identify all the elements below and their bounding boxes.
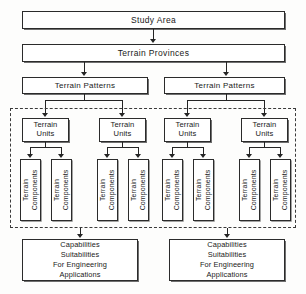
terrain-hierarchy-diagram: Study Area Terrain Provinces Terrain Pat… <box>0 0 306 294</box>
arrowhead-capabilities-1 <box>77 234 83 238</box>
terrain-components-box-5: Terrain Components <box>162 159 183 221</box>
capabilities-label-1-line2: Suitabilities <box>61 250 100 260</box>
terrain-units-label-3-line2: Units <box>179 130 197 139</box>
terrain-patterns-label-2: Terrain Patterns <box>194 81 254 90</box>
terrain-components-text-3: Terrain Components <box>99 170 117 211</box>
terrain-components-label-1-line2: Components <box>31 170 38 211</box>
capabilities-box-2: Capabilities Suitabilities For Engineeri… <box>169 239 285 281</box>
terrain-components-box-8: Terrain Components <box>270 159 291 221</box>
terrain-components-text-2: Terrain Components <box>53 170 71 211</box>
capabilities-label-2-line1: Capabilities <box>207 240 246 250</box>
study-area-box: Study Area <box>22 11 285 29</box>
terrain-units-box-1: Terrain Units <box>22 118 69 142</box>
arrowhead-unit-3 <box>184 113 190 117</box>
bus-unit1 <box>30 147 61 148</box>
terrain-components-label-2-line2: Components <box>62 170 69 211</box>
terrain-components-label-4-line1: Terrain <box>130 179 137 201</box>
arrowhead-comp-1 <box>27 154 33 158</box>
bus-unit4 <box>249 147 280 148</box>
terrain-components-label-3-line2: Components <box>108 170 115 211</box>
capabilities-label-1-line4: Applications <box>59 270 100 280</box>
study-area-label: Study Area <box>131 15 176 25</box>
terrain-components-label-1-line1: Terrain <box>22 179 29 201</box>
capabilities-label-2-line3: For Engineering <box>200 260 254 270</box>
terrain-components-box-3: Terrain Components <box>97 159 118 221</box>
terrain-units-box-4: Terrain Units <box>241 118 288 142</box>
terrain-units-box-3: Terrain Units <box>164 118 211 142</box>
terrain-units-label-4-line2: Units <box>256 130 274 139</box>
terrain-components-label-8-line2: Components <box>281 170 288 211</box>
arrowhead-comp-5 <box>169 154 175 158</box>
capabilities-label-2-line2: Suitabilities <box>208 250 247 260</box>
terrain-patterns-label-1: Terrain Patterns <box>55 81 115 90</box>
terrain-components-box-6: Terrain Components <box>193 159 214 221</box>
arrowhead-comp-6 <box>200 154 206 158</box>
terrain-components-text-5: Terrain Components <box>164 170 182 211</box>
connector-pattern2-to-unit3 <box>187 100 188 114</box>
terrain-units-label-2-line2: Units <box>114 130 132 139</box>
terrain-components-text-8: Terrain Components <box>272 170 290 211</box>
connector-pattern2-to-unit4 <box>264 100 265 114</box>
terrain-patterns-box-1: Terrain Patterns <box>22 77 148 94</box>
terrain-components-label-4-line2: Components <box>139 170 146 211</box>
arrowhead-unit-1 <box>42 113 48 117</box>
capabilities-label-1-line3: For Engineering <box>53 260 107 270</box>
connector-pattern1-to-unit1 <box>45 100 46 114</box>
terrain-components-label-7-line2: Components <box>250 170 257 211</box>
bus-unit3 <box>172 147 203 148</box>
terrain-patterns-box-2: Terrain Patterns <box>164 77 285 94</box>
terrain-components-text-6: Terrain Components <box>195 170 213 211</box>
terrain-components-label-8-line1: Terrain <box>272 179 279 201</box>
terrain-provinces-label: Terrain Provinces <box>118 48 190 58</box>
arrowhead-comp-7 <box>246 154 252 158</box>
terrain-components-label-7-line1: Terrain <box>241 179 248 201</box>
arrowhead-patterns-1 <box>81 72 87 76</box>
capabilities-label-2-line4: Applications <box>206 270 247 280</box>
arrowhead-comp-2 <box>58 154 64 158</box>
arrowhead-unit-4 <box>261 113 267 117</box>
terrain-components-box-2: Terrain Components <box>51 159 72 221</box>
arrowhead-unit-2 <box>119 113 125 117</box>
terrain-components-text-1: Terrain Components <box>22 170 40 211</box>
terrain-components-label-3-line1: Terrain <box>99 179 106 201</box>
bus-pattern2 <box>187 100 265 101</box>
terrain-components-text-4: Terrain Components <box>130 170 148 211</box>
capabilities-box-1: Capabilities Suitabilities For Engineeri… <box>22 239 138 281</box>
terrain-units-box-2: Terrain Units <box>99 118 146 142</box>
terrain-components-label-5-line1: Terrain <box>164 179 171 201</box>
bus-pattern1 <box>45 100 123 101</box>
arrowhead-comp-3 <box>104 154 110 158</box>
bus-unit2 <box>107 147 138 148</box>
arrowhead-patterns-2 <box>223 72 229 76</box>
arrowhead-comp-4 <box>135 154 141 158</box>
terrain-units-label-1-line2: Units <box>37 130 55 139</box>
terrain-components-box-7: Terrain Components <box>239 159 260 221</box>
terrain-components-text-7: Terrain Components <box>241 170 259 211</box>
terrain-provinces-box: Terrain Provinces <box>22 44 285 62</box>
terrain-components-label-2-line1: Terrain <box>53 179 60 201</box>
terrain-components-box-4: Terrain Components <box>128 159 149 221</box>
connector-pattern1-to-unit2 <box>122 100 123 114</box>
terrain-components-label-5-line2: Components <box>173 170 180 211</box>
terrain-components-box-1: Terrain Components <box>20 159 41 221</box>
arrowhead-capabilities-2 <box>224 234 230 238</box>
terrain-components-label-6-line1: Terrain <box>195 179 202 201</box>
arrowhead-comp-8 <box>277 154 283 158</box>
terrain-components-label-6-line2: Components <box>204 170 211 211</box>
capabilities-label-1-line1: Capabilities <box>60 240 99 250</box>
arrowhead-provinces <box>150 39 156 43</box>
